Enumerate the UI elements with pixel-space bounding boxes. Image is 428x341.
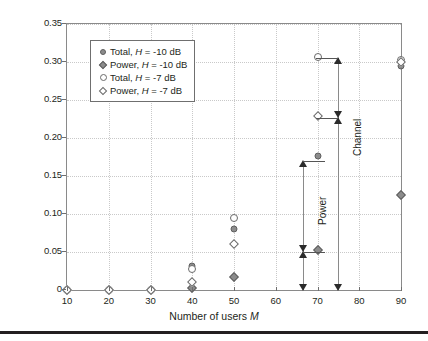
x-axis-tick-label: 20 bbox=[103, 295, 114, 306]
y-axis-tick-label: 0.15 bbox=[0, 169, 62, 180]
x-axis-tick-mark bbox=[192, 287, 193, 291]
y-axis-tick-mark bbox=[62, 175, 66, 176]
gridline-vertical bbox=[234, 24, 235, 290]
x-axis-title: Number of users M bbox=[0, 310, 428, 322]
x-axis-tick-label: 30 bbox=[145, 295, 156, 306]
legend-item[interactable]: Power, H = -7 dB bbox=[96, 84, 187, 97]
annotation-arrow-line bbox=[338, 58, 339, 290]
legend-item-label: Power, H = -7 dB bbox=[110, 85, 182, 96]
annotation-label: Power bbox=[317, 197, 328, 225]
x-axis-tick-mark bbox=[151, 287, 152, 291]
x-axis-tick-mark bbox=[234, 287, 235, 291]
annotation-cap-line bbox=[316, 58, 338, 59]
data-point bbox=[231, 226, 238, 233]
annotation-cap-line bbox=[303, 252, 325, 253]
x-axis-tick-label: 70 bbox=[312, 295, 323, 306]
data-point bbox=[188, 265, 196, 273]
y-axis-tick-mark bbox=[62, 251, 66, 252]
y-axis-tick-mark bbox=[62, 137, 66, 138]
legend-item-label: Power, H = -10 dB bbox=[110, 59, 187, 70]
annotation-arrowhead-down-inner bbox=[299, 245, 307, 252]
x-axis-tick-mark bbox=[109, 287, 110, 291]
legend-box: Total, H = -10 dBPower, H = -10 dBTotal,… bbox=[90, 40, 195, 102]
x-axis-tick-label: 50 bbox=[229, 295, 240, 306]
y-axis-tick-mark bbox=[62, 213, 66, 214]
y-axis-tick-label: 0.05 bbox=[0, 245, 62, 256]
x-axis-tick-mark bbox=[67, 287, 68, 291]
x-axis-tick-mark bbox=[276, 287, 277, 291]
x-axis-tick-mark bbox=[318, 287, 319, 291]
x-axis-tick-label: 40 bbox=[187, 295, 198, 306]
y-axis-tick-label: 0.25 bbox=[0, 93, 62, 104]
y-axis-tick-mark bbox=[62, 23, 66, 24]
bottom-rule bbox=[0, 331, 428, 334]
data-point bbox=[314, 153, 321, 160]
annotation-arrowhead-down bbox=[299, 284, 307, 291]
y-axis-tick-mark bbox=[62, 61, 66, 62]
y-axis-tick-label: 0.35 bbox=[0, 17, 62, 28]
legend-item[interactable]: Total, H = -10 dB bbox=[96, 45, 187, 58]
annotation-cap-line bbox=[303, 161, 325, 162]
x-axis-tick-mark bbox=[401, 287, 402, 291]
figure-container: ChannelPower Total, H = -10 dBPower, H =… bbox=[0, 0, 428, 341]
gridline-vertical bbox=[276, 24, 277, 290]
x-axis-tick-mark bbox=[359, 287, 360, 291]
data-point bbox=[313, 111, 323, 121]
annotation-arrow-line bbox=[303, 161, 304, 290]
x-axis-tick-label: 80 bbox=[354, 295, 365, 306]
data-point bbox=[230, 214, 238, 222]
legend-marker-filled-diamond-icon bbox=[96, 62, 110, 68]
y-axis-tick-label: 0.10 bbox=[0, 207, 62, 218]
x-axis-tick-label: 10 bbox=[62, 295, 73, 306]
annotation-arrowhead-down-inner bbox=[334, 111, 342, 118]
y-axis-tick-label: 0 bbox=[0, 283, 62, 294]
legend-item-label: Total, H = -10 dB bbox=[110, 46, 181, 57]
y-axis-tick-mark bbox=[62, 99, 66, 100]
legend-item[interactable]: Power, H = -10 dB bbox=[96, 58, 187, 71]
annotation-cap-line bbox=[316, 118, 338, 119]
y-axis-tick-label: 0.20 bbox=[0, 131, 62, 142]
plot-area: ChannelPower Total, H = -10 dBPower, H =… bbox=[66, 23, 402, 291]
legend-marker-open-circle-icon bbox=[96, 74, 110, 81]
data-point bbox=[313, 245, 323, 255]
legend-item[interactable]: Total, H = -7 dB bbox=[96, 71, 187, 84]
data-point bbox=[229, 272, 239, 282]
y-axis-tick-label: 0.30 bbox=[0, 55, 62, 66]
y-axis-tick-mark bbox=[62, 289, 66, 290]
gridline-vertical bbox=[359, 24, 360, 290]
data-point bbox=[314, 53, 322, 61]
data-point bbox=[229, 239, 239, 249]
legend-marker-open-diamond-icon bbox=[96, 88, 110, 94]
annotation-label: Channel bbox=[352, 118, 363, 155]
x-axis-tick-label: 90 bbox=[396, 295, 407, 306]
x-axis-tick-label: 60 bbox=[270, 295, 281, 306]
legend-item-label: Total, H = -7 dB bbox=[110, 72, 176, 83]
data-point bbox=[396, 190, 406, 200]
annotation-arrowhead-down bbox=[334, 284, 342, 291]
legend-marker-filled-circle-icon bbox=[96, 49, 110, 55]
